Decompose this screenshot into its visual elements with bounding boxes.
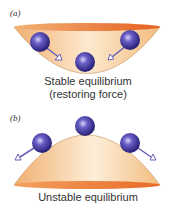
ball-top-icon (75, 116, 95, 136)
ball-left-icon (32, 133, 52, 153)
stable-caption: Stable equilibrium (restoring force) (0, 75, 176, 101)
bowl-rim (14, 23, 160, 31)
unstable-equilibrium-panel: (b) Unst (0, 103, 176, 206)
ball-left-icon (30, 32, 50, 52)
stable-equilibrium-panel: (a) (0, 0, 176, 103)
caption-line-2: (restoring force) (0, 88, 176, 101)
caption-line-1: Stable equilibrium (0, 75, 176, 88)
ball-center-icon (75, 52, 95, 72)
dome-rim (14, 181, 160, 189)
ball-right-icon (120, 133, 140, 153)
unstable-caption: Unstable equilibrium (0, 191, 176, 204)
ball-right-icon (120, 30, 140, 50)
